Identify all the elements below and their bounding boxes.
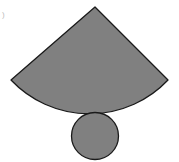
sector-shape (11, 7, 168, 114)
cone-net-diagram (0, 0, 179, 162)
base-circle (72, 113, 119, 160)
